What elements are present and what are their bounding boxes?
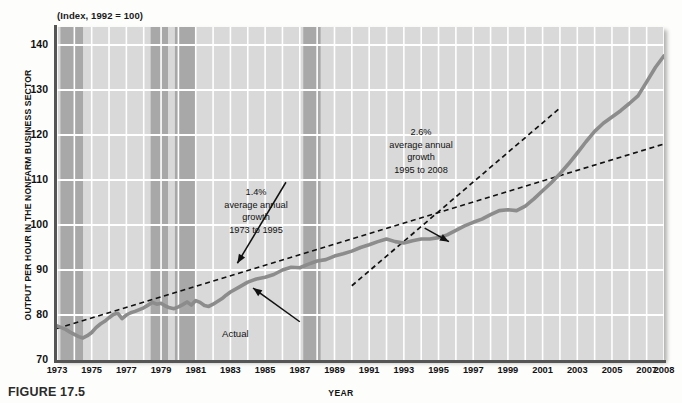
x-tick-label: 1983 [213,365,247,375]
x-tick-label: 2003 [560,365,594,375]
chart-subtitle: (Index, 1992 = 100) [57,10,143,21]
y-axis-spine [54,25,57,363]
y-tick-label: 130 [8,83,48,95]
x-tick-label: 2005 [595,365,629,375]
plot-area [57,27,664,360]
x-tick-label: 1989 [317,365,351,375]
arrow-head [253,288,262,296]
x-tick-label: 1973 [40,365,74,375]
recession-band [60,27,83,360]
y-tick-label: 90 [8,263,48,275]
plot-svg [57,27,664,360]
x-tick-label: 2001 [526,365,560,375]
y-tick-label: 80 [8,308,48,320]
figure-caption: FIGURE 17.5 [8,385,85,399]
x-tick-label: 1979 [144,365,178,375]
x-tick-label: 1995 [422,365,456,375]
x-tick-label: 1981 [179,365,213,375]
y-tick-label: 110 [8,173,48,185]
annotation-trend-late: 2.6% average annual growth 1995 to 2008 [361,126,481,176]
figure-root: (Index, 1992 = 100) OUTPUT PER HOUR IN T… [0,0,682,403]
x-tick-label: 1993 [387,365,421,375]
x-tick-label: 1999 [491,365,525,375]
x-tick-label: 1987 [283,365,317,375]
y-tick-label: 120 [8,128,48,140]
y-tick-label: 140 [8,38,48,50]
y-tick-label: 70 [8,353,48,365]
arrow-head [237,254,245,264]
gridlines-vertical [57,27,664,360]
x-axis-title: YEAR [0,388,682,398]
gridlines-horizontal [57,45,664,315]
recession-band [151,27,168,360]
annotation-trend-early: 1.4% average annual growth 1973 to 1995 [196,186,316,236]
y-tick-label: 100 [8,218,48,230]
x-axis-spine [54,360,666,363]
x-tick-label: 2008 [647,365,681,375]
data-line-actual [57,56,664,338]
x-tick-label: 1997 [456,365,490,375]
x-tick-label: 1977 [109,365,143,375]
x-tick-label: 1985 [248,365,282,375]
series-actual [57,56,664,338]
x-tick-label: 1991 [352,365,386,375]
x-tick-label: 1975 [75,365,109,375]
annotation-actual-label: Actual [222,328,249,339]
